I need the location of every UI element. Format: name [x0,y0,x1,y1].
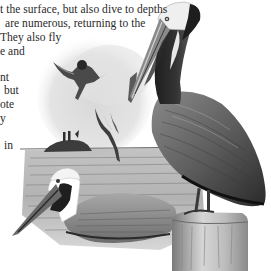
sky-haze [37,35,153,155]
text-line-1: t the surface, but also dive to depths [0,3,167,16]
document-page: t the surface, but also dive to depths a… [0,0,271,271]
text-line-8: ote [0,98,14,111]
text-line-2: are numerous, returning to the [5,17,145,30]
text-line-9: y [0,112,6,125]
text-line-3: They also fly [0,31,61,44]
wooden-post [172,212,248,271]
text-line-4: e and [0,45,25,58]
text-line-11: in [4,139,13,152]
text-line-7: but [4,84,19,97]
text-line-6: nt [0,71,9,84]
